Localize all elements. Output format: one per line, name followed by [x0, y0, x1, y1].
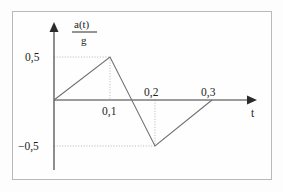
figure-frame: [13, 12, 272, 180]
y-tick-label-negative-half: −0,5: [18, 140, 39, 153]
x-tick-label-0-3: 0,3: [201, 86, 216, 99]
y-axis-label-denominator: g: [81, 34, 87, 46]
figure-root: a(t) g t 0,5 −0,5 0,1 0,2 0,3: [0, 0, 283, 192]
x-tick-label-0-1: 0,1: [102, 105, 117, 118]
y-axis-label-numerator: a(t): [74, 18, 90, 31]
x-tick-label-0-2: 0,2: [144, 86, 159, 99]
acceleration-plot-svg: a(t) g t 0,5 −0,5 0,1 0,2 0,3: [0, 0, 283, 192]
y-tick-label-positive-half: 0,5: [25, 51, 40, 64]
